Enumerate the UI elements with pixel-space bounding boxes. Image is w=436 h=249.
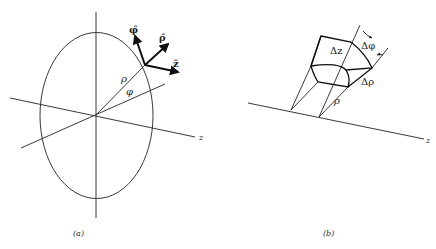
z-axis-label-b: z [425,136,431,145]
circle-ellipse [40,33,153,199]
radial-edge-left-inner [291,82,318,110]
delta-phi-arrow-top [363,31,372,38]
z-axis-label: z [198,133,204,142]
phi-hat-arrow [135,36,145,65]
phi-hat-label: φ̂ [129,24,138,35]
delta-phi-arrow-bottom [377,55,383,56]
rho-hat-label: ρ̂ [159,32,166,43]
rho-label-b: ρ [333,95,340,106]
delta-phi-label: Δφ [361,40,375,51]
radial-ref-line-2 [372,48,388,68]
phi-label: φ [126,86,133,97]
delta-rho-label: Δρ [361,76,374,87]
caption-b: (b) [323,229,334,238]
rho-label: ρ [120,73,127,84]
radial-edge-left [291,66,311,110]
diagonal-axis [21,84,165,148]
rho-hat-arrow [145,44,168,65]
cylindrical-coordinates-figure: φ̂ ρ̂ ẑ ρ φ z (a) z Δ [0,0,436,249]
z-axis-b [248,103,424,139]
panel-a: φ̂ ρ̂ ẑ ρ φ z (a) [10,12,204,238]
caption-a: (a) [73,229,84,238]
z-hat-label: ẑ [173,58,179,69]
panel-b: z Δz Δφ Δρ ρ (b) [248,25,431,238]
delta-z-label: Δz [330,45,343,56]
z-axis [10,98,195,137]
